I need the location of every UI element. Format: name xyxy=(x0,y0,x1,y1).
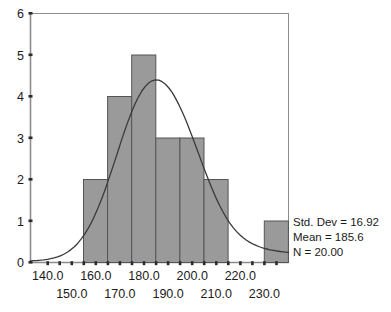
x-tick-label-200: 200.0 xyxy=(177,269,208,283)
histogram-bar xyxy=(156,138,180,263)
statistics-annotation: Std. Dev = 16.92 Mean = 185.6 N = 20.00 xyxy=(293,216,379,258)
mean-label: Mean = 185.6 xyxy=(293,231,364,243)
x-axis-tick-labels-lower: 150.0 170.0 190.0 210.0 230.0 xyxy=(56,287,280,301)
x-tick-label-170: 170.0 xyxy=(104,287,135,301)
x-tick-label-190: 190.0 xyxy=(152,287,183,301)
x-tick-label-210: 210.0 xyxy=(201,287,232,301)
y-tick-label-5: 5 xyxy=(17,49,24,63)
x-tick-label-230: 230.0 xyxy=(249,287,280,301)
x-tick-label-140: 140.0 xyxy=(32,269,63,283)
sample-size-label: N = 20.00 xyxy=(293,246,343,258)
x-tick-label-160: 160.0 xyxy=(80,269,111,283)
histogram-bar xyxy=(132,55,156,263)
x-tick-label-180: 180.0 xyxy=(128,269,159,283)
histogram-figure: 6 5 4 3 2 1 0 xyxy=(0,0,391,312)
std-dev-label: Std. Dev = 16.92 xyxy=(293,216,379,228)
y-tick-label-0: 0 xyxy=(17,256,24,270)
histogram-bar xyxy=(264,221,288,263)
x-axis-tick-labels-upper: 140.0 160.0 180.0 200.0 220.0 xyxy=(32,269,256,283)
y-tick-label-4: 4 xyxy=(17,90,24,104)
y-tick-label-6: 6 xyxy=(17,7,24,21)
x-tick-label-150: 150.0 xyxy=(56,287,87,301)
histogram-chart: 6 5 4 3 2 1 0 xyxy=(0,0,391,312)
y-tick-label-2: 2 xyxy=(17,173,24,187)
histogram-bar xyxy=(204,180,228,263)
y-axis-tick-labels: 6 5 4 3 2 1 0 xyxy=(17,7,24,270)
y-tick-label-3: 3 xyxy=(17,132,24,146)
y-tick-label-1: 1 xyxy=(17,215,24,229)
x-tick-label-220: 220.0 xyxy=(225,269,256,283)
